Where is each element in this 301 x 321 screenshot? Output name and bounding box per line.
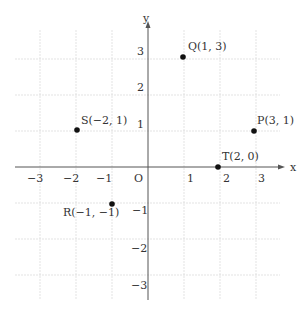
x-tick: −3	[27, 172, 43, 185]
y-tick: −2	[131, 242, 147, 255]
axes	[15, 26, 280, 300]
origin-label: O	[134, 172, 143, 185]
y-tick: 1	[137, 118, 144, 131]
point-q	[180, 54, 186, 60]
point-p	[251, 128, 257, 134]
point-label-r: R(−1, −1)	[63, 206, 119, 219]
y-tick: 2	[137, 81, 144, 94]
point-label-q: Q(1, 3)	[188, 40, 227, 53]
point-label-p: P(3, 1)	[257, 114, 294, 127]
y-tick: −1	[132, 204, 148, 217]
point-label-s: S(−2, 1)	[81, 114, 127, 127]
point-s	[74, 127, 80, 133]
x-tick: 3	[258, 172, 265, 185]
point-t	[215, 164, 221, 170]
y-tick: 3	[137, 45, 144, 58]
coordinate-plane: x y O −3 −2 −1 1 2 3 3 2 1 −1 −2 −3 Q(1,…	[0, 0, 301, 321]
x-axis-label: x	[290, 161, 297, 174]
y-axis-label: y	[142, 12, 150, 25]
x-tick: 1	[187, 172, 194, 185]
x-tick: −2	[63, 172, 79, 185]
y-tick: −3	[131, 279, 147, 292]
x-tick: −1	[96, 172, 112, 185]
point-label-t: T(2, 0)	[222, 150, 259, 163]
x-axis-arrow-icon	[278, 165, 285, 170]
x-tick: 2	[223, 172, 230, 185]
